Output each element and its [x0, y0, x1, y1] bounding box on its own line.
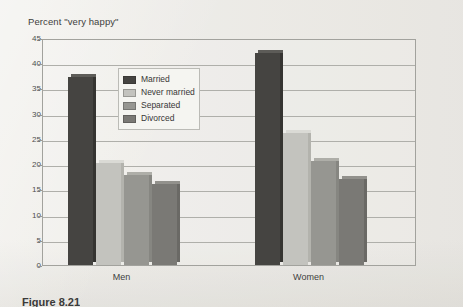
- bar-front-face: [68, 77, 93, 265]
- bar-front-face: [152, 184, 177, 265]
- bar: [68, 77, 93, 265]
- legend-item-label: Never married: [141, 88, 195, 97]
- bar-front-face: [283, 133, 308, 265]
- bar: [283, 133, 308, 265]
- gridline: [43, 65, 415, 66]
- legend-swatch-icon: [123, 115, 136, 123]
- bar-side-face: [364, 176, 367, 262]
- legend-item-label: Divorced: [141, 114, 175, 123]
- bar: [311, 161, 336, 265]
- bar: [152, 184, 177, 265]
- bar-front-face: [96, 163, 121, 265]
- legend-swatch-icon: [123, 76, 136, 84]
- legend-item: Separated: [123, 99, 195, 112]
- bar: [255, 53, 280, 265]
- bar-side-face: [177, 181, 180, 262]
- bar-front-face: [311, 161, 336, 265]
- legend-swatch-icon: [123, 89, 136, 97]
- figure-container: Percent "very happy" 051015202530354045 …: [0, 0, 463, 307]
- gridline: [43, 141, 415, 142]
- bar-front-face: [255, 53, 280, 265]
- bar: [339, 179, 364, 265]
- legend-item-label: Married: [141, 75, 170, 84]
- plot-area: [42, 39, 416, 266]
- bar: [96, 163, 121, 265]
- legend-item-label: Separated: [141, 101, 180, 110]
- x-axis-category-label: Women: [293, 272, 324, 282]
- y-axis-title: Percent "very happy": [28, 16, 119, 27]
- y-axis-tick-mark: [38, 266, 42, 267]
- legend-swatch-icon: [123, 102, 136, 110]
- bar: [124, 175, 149, 265]
- legend-item: Married: [123, 73, 195, 86]
- legend-item: Divorced: [123, 112, 195, 125]
- gridline: [43, 116, 415, 117]
- gridline: [43, 90, 415, 91]
- legend-item: Never married: [123, 86, 195, 99]
- figure-caption: Figure 8.21: [22, 296, 80, 307]
- bar-front-face: [124, 175, 149, 265]
- x-axis-category-label: Men: [113, 272, 131, 282]
- chart-legend: MarriedNever marriedSeparatedDivorced: [118, 68, 200, 130]
- bar-front-face: [339, 179, 364, 265]
